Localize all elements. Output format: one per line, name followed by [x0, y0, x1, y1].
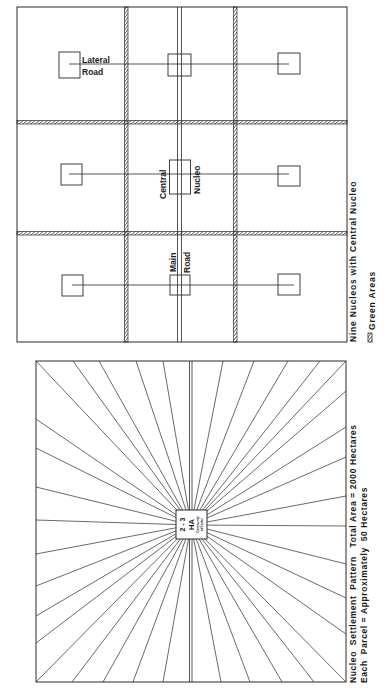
top-diagram-border [17, 7, 347, 342]
center-at-center-label: at Center [200, 517, 204, 531]
green-area-strip-horizontal-2 [17, 232, 347, 236]
lateral-road-label-line2: Road [82, 67, 103, 77]
nucleo-box-middle-right [278, 166, 300, 186]
bottom-diagram-title: Nucleo Settlement Pattern Total Area = 2… [348, 424, 358, 683]
green-areas-swatch-icon [368, 333, 372, 342]
nucleo-box-top-left [59, 52, 80, 78]
main-road-label-line2: Road [182, 252, 192, 273]
legend-label: Green Areas [367, 271, 377, 330]
diagram-canvas: Lateral Road Central Nucleo Main Road Ni… [0, 0, 389, 699]
community-center-box: 2 - 3 HA Community at Center [176, 510, 207, 539]
lateral-road-label-line1: Lateral [82, 55, 110, 65]
nucleo-box-top-center [168, 54, 191, 76]
central-nucleo-box [170, 160, 191, 194]
main-road [178, 7, 182, 342]
nine-nucleos-diagram: Lateral Road Central Nucleo Main Road Ni… [17, 7, 377, 342]
green-area-strip-vertical-1 [125, 7, 129, 342]
green-area-strip-horizontal-1 [17, 121, 347, 125]
nucleo-box-bottom-right [278, 274, 300, 295]
top-diagram-title: Nine Nucleos with Central Nucleo [348, 181, 358, 342]
main-road-label-line1: Main [168, 253, 178, 272]
center-area-label: 2 - 3 [179, 517, 186, 531]
central-nucleo-label-line1: Central [158, 170, 168, 199]
green-area-strip-vertical-2 [234, 7, 238, 342]
nucleo-box-bottom-left [62, 275, 83, 296]
central-nucleo-label-line2: Nucleo [192, 166, 202, 194]
center-unit-label: HA [187, 519, 196, 530]
bottom-diagram-subtitle: Each Parcel = Approximately 50 Hectares [359, 487, 369, 683]
nucleo-box-top-right [278, 53, 300, 74]
nucleo-settlement-diagram: 2 - 3 HA Community at Center Nucleo Sett… [36, 361, 369, 683]
legend-green-areas: Green Areas [367, 271, 377, 342]
nucleo-box-middle-left [61, 164, 82, 185]
